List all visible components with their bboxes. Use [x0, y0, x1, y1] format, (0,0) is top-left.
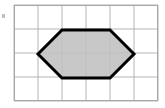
figure-container — [0, 0, 165, 108]
left-edge-mark — [2, 14, 5, 18]
hexagon-grid-figure — [0, 0, 165, 108]
